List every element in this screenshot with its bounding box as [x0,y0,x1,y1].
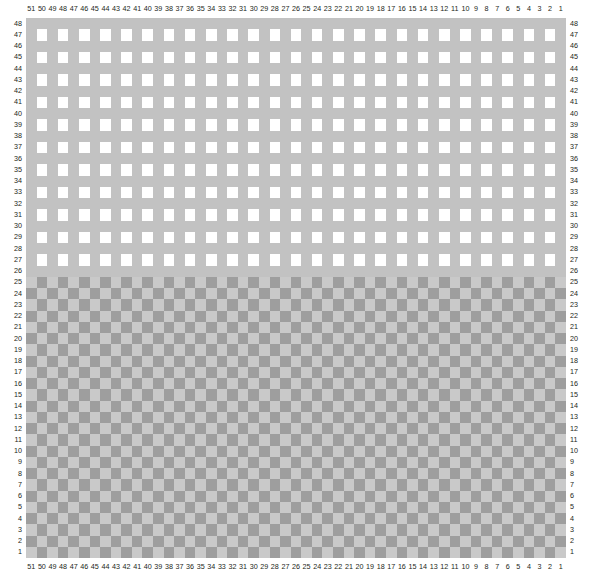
heatmap-cell [502,536,513,548]
x-axis-tick: 36 [186,561,194,573]
heatmap-cell [270,356,281,368]
heatmap-cell [513,288,524,300]
heatmap-cell [428,119,439,131]
heatmap-cell [58,378,69,390]
heatmap-cell [386,277,397,289]
heatmap-cell [386,434,397,446]
x-axis-tick: 17 [387,3,395,15]
heatmap-cell [164,153,175,165]
heatmap-cell [90,243,101,255]
heatmap-cell [439,401,450,413]
heatmap-cell [79,389,90,401]
heatmap-cell [90,322,101,334]
heatmap-cell [79,277,90,289]
heatmap-cell [90,434,101,446]
x-axis-tick: 23 [324,3,332,15]
x-axis-tick: 17 [387,561,395,573]
heatmap-cell [397,479,408,491]
heatmap-cell [121,513,132,525]
heatmap-cell [333,356,344,368]
heatmap-cell [418,119,429,131]
heatmap-cell [37,243,48,255]
heatmap-cell [481,401,492,413]
heatmap-cell [248,243,259,255]
heatmap-cell [439,434,450,446]
heatmap-cell [344,547,355,559]
heatmap-cell [185,232,196,244]
heatmap-cell [354,142,365,154]
heatmap-cell [513,29,524,41]
heatmap-cell [100,221,111,233]
heatmap-cell [545,18,556,30]
heatmap-cell [195,254,206,266]
heatmap-cell [26,457,37,469]
heatmap-cell [206,333,217,345]
heatmap-cell [26,209,37,221]
heatmap-cell [185,389,196,401]
heatmap-cell [217,288,228,300]
x-axis-tick: 32 [228,3,236,15]
heatmap-cell [238,547,249,559]
heatmap-cell [280,209,291,221]
heatmap-cell [312,311,323,323]
heatmap-cell [439,41,450,53]
heatmap-cell [312,322,323,334]
heatmap-cell [238,142,249,154]
heatmap-cell [439,389,450,401]
heatmap-cell [397,63,408,75]
heatmap-cell [492,63,503,75]
heatmap-cell [90,423,101,435]
heatmap-cell [386,479,397,491]
heatmap-cell [185,52,196,64]
heatmap-cell [502,434,513,446]
heatmap-cell [428,243,439,255]
heatmap-cell [524,164,535,176]
heatmap-cell [555,322,566,334]
heatmap-cell [418,18,429,30]
heatmap-cell [100,524,111,536]
heatmap-cell [90,164,101,176]
y-axis-tick: 19 [570,344,590,355]
heatmap-cell [545,389,556,401]
x-axis-tick: 14 [419,3,427,15]
heatmap-cell [132,468,143,480]
heatmap-cell [513,187,524,199]
heatmap-cell [270,457,281,469]
y-axis-tick: 2 [570,536,590,547]
heatmap-cell [79,322,90,334]
heatmap-cell [471,502,482,514]
heatmap-cell [195,221,206,233]
heatmap-cell [37,479,48,491]
heatmap-cell [333,491,344,503]
heatmap-cell [471,479,482,491]
heatmap-cell [280,322,291,334]
heatmap-cell [555,18,566,30]
heatmap-cell [301,108,312,120]
heatmap-cell [195,176,206,188]
heatmap-cell [322,457,333,469]
heatmap-cell [439,446,450,458]
heatmap-cell [121,479,132,491]
heatmap-cell [492,108,503,120]
heatmap-cell [291,434,302,446]
heatmap-cell [238,266,249,278]
heatmap-cell [153,536,164,548]
y-axis-tick: 30 [570,221,590,232]
heatmap-cell [26,41,37,53]
heatmap-cell [206,367,217,379]
heatmap-cell [248,322,259,334]
heatmap-cell [195,468,206,480]
x-axis-tick: 30 [250,3,258,15]
heatmap-cell [164,63,175,75]
heatmap-cell [524,502,535,514]
heatmap-cell [174,502,185,514]
heatmap-cell [418,176,429,188]
heatmap-cell [174,41,185,53]
heatmap-cell [270,86,281,98]
heatmap-cell [47,344,58,356]
heatmap-cell [354,491,365,503]
heatmap-cell [248,367,259,379]
heatmap-cell [481,288,492,300]
heatmap-cell [280,423,291,435]
heatmap-cell [111,434,122,446]
